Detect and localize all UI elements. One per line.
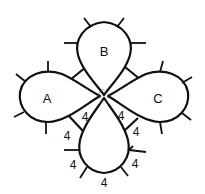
count-right-outer: 4 (133, 125, 140, 139)
count-right-inner: 4 (118, 109, 125, 123)
tatting-diagram: B A C 4 4 4 4 4 4 4 4 (0, 0, 205, 194)
count-bottom-left-lower: 4 (70, 158, 77, 172)
count-bottom-center: 4 (101, 176, 108, 190)
count-left-inner: 4 (82, 110, 89, 124)
count-bottom-right-upper: 4 (132, 157, 139, 171)
ring-c-label: C (153, 91, 162, 106)
ring-b-label: B (100, 44, 109, 59)
ring-a-label: A (43, 91, 52, 106)
